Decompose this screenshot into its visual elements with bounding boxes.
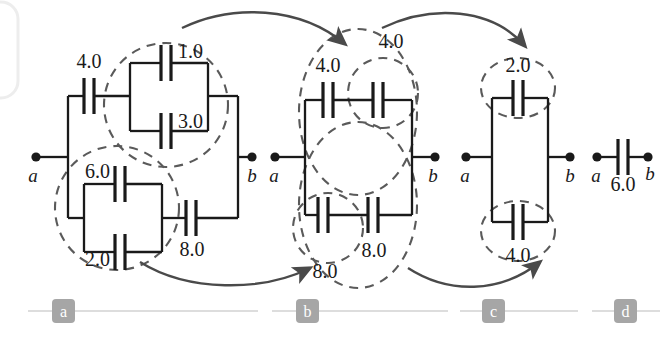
cap-label-2-0: 2.0	[85, 248, 110, 270]
terminal-label-b-c: b	[565, 165, 575, 186]
cap-label-8-0-a: 8.0	[180, 238, 205, 260]
cap-b-8-0-right	[368, 197, 378, 233]
panel-label-strip: a b c d	[28, 299, 660, 323]
cap-label-1-0: 1.0	[178, 40, 203, 62]
panel-label-a: a	[60, 303, 67, 320]
terminal-dot-b-b	[430, 152, 439, 161]
cap-b-8-0-left	[318, 197, 328, 233]
circuit-c: 2.0 4.0 a b	[460, 54, 575, 266]
cap-label-4-0-top: 4.0	[77, 50, 102, 72]
cap-label-c-4-0: 4.0	[506, 244, 531, 266]
cap-c-2-0	[513, 80, 523, 116]
terminal-label-a-c: a	[460, 165, 470, 186]
cap-8-0-a	[186, 200, 196, 236]
scan-artifact	[0, 2, 18, 98]
group-1-3-parallel	[104, 43, 228, 167]
cap-6-0	[115, 166, 125, 202]
terminal-label-b-d: b	[645, 163, 655, 184]
cap-label-b-8-0-right: 8.0	[362, 239, 387, 261]
cap-4-0-top	[84, 78, 94, 114]
panel-label-b: b	[304, 303, 312, 320]
circuit-d: 6.0 a b	[591, 139, 655, 195]
cap-label-b-8-0-left: 8.0	[313, 260, 338, 282]
terminal-label-a-b: a	[269, 165, 279, 186]
terminal-dot-b	[247, 152, 256, 161]
terminal-label-b: b	[247, 165, 257, 186]
cap-label-c-2-0: 2.0	[506, 54, 531, 76]
cap-2-0	[115, 234, 125, 270]
terminal-label-a-d: a	[591, 165, 601, 186]
cap-1-0	[161, 45, 171, 81]
cap-3-0	[161, 113, 171, 149]
terminal-label-b-b: b	[428, 165, 438, 186]
panel-label-d: d	[622, 303, 630, 320]
terminal-dot-b-c	[565, 152, 574, 161]
capacitor-reduction-figure: 4.0 1.0 3.0 6.0	[0, 0, 668, 345]
circuit-b: 4.0 4.0 8.0 8.0 a b	[269, 29, 439, 288]
cap-c-4-0	[513, 204, 523, 240]
arrow-a-to-b-bottom	[140, 262, 310, 285]
cap-label-b-4-0-left: 4.0	[316, 54, 341, 76]
terminal-dot-b-d	[643, 152, 652, 161]
cap-label-3-0: 3.0	[178, 110, 203, 132]
panel-label-c: c	[490, 303, 497, 320]
cap-d-6-0	[618, 139, 628, 175]
circuit-a: 4.0 1.0 3.0 6.0	[28, 40, 257, 270]
arrow-a-to-b-top	[182, 12, 345, 44]
cap-label-d-6-0: 6.0	[611, 173, 636, 195]
cap-b-4-0-right	[373, 82, 383, 118]
cap-label-6-0: 6.0	[85, 160, 110, 182]
cap-b-4-0-left	[323, 82, 333, 118]
terminal-label-a: a	[28, 165, 38, 186]
cap-label-b-4-0-right: 4.0	[379, 30, 404, 52]
